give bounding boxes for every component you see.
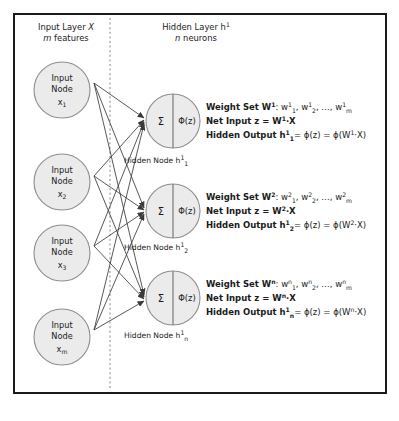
input-node: Input Node x3	[34, 225, 90, 281]
input-node-label-line2: Node	[51, 247, 72, 257]
input-node-label-line1: Input	[51, 236, 73, 246]
input-node-label-line1: Input	[51, 165, 73, 175]
input-node: Input Node xm	[34, 309, 90, 365]
input-node-label-line1: Input	[51, 320, 73, 330]
net-input-equation: Net Input z = Wn·X	[206, 292, 296, 303]
input-node-label-line2: Node	[51, 331, 72, 341]
equation-block: Weight Set W1: w11, w12, …, w1m Net Inpu…	[206, 101, 366, 142]
connection-edges	[94, 83, 144, 330]
diagram-canvas: Input Layer X m features Hidden Layer h1…	[0, 0, 399, 421]
input-node-label-line2: Node	[51, 84, 72, 94]
weight-set-equation: Weight Set W2: w21, w22, …, w2m	[206, 191, 352, 204]
summation-symbol: Σ	[158, 293, 164, 304]
hidden-node-label: Hidden Node h11	[124, 154, 188, 167]
equation-block: Weight Set Wn: wn1, wn2, …, wnm Net Inpu…	[206, 278, 366, 319]
hidden-node-label: Hidden Node h12	[124, 241, 188, 254]
hidden-node: Σ Φ(z) Hidden Node h12	[124, 184, 200, 254]
hidden-node: Σ Φ(z) Hidden Node h11	[124, 94, 200, 167]
equation-block: Weight Set W2: w21, w22, …, w2m Net Inpu…	[206, 191, 366, 232]
net-input-equation: Net Input z = W2·X	[206, 205, 296, 216]
activation-symbol: Φ(z)	[178, 206, 196, 216]
hidden-output-equation: Hidden Output h12= ϕ(z) = ϕ(W2·X)	[206, 219, 366, 232]
summation-symbol: Σ	[158, 206, 164, 217]
weight-set-equation: Weight Set Wn: wn1, wn2, …, wnm	[206, 278, 352, 291]
activation-symbol: Φ(z)	[178, 293, 196, 303]
weight-set-equation: Weight Set W1: w11, w12, …, w1m	[206, 101, 352, 114]
hidden-layer-header-line1: Hidden Layer h1	[162, 21, 230, 32]
hidden-layer-header-line2: n neurons	[175, 33, 217, 43]
net-input-equation: Net Input z = W1·X	[206, 115, 296, 126]
neural-network-diagram: Input Layer X m features Hidden Layer h1…	[0, 0, 399, 421]
input-node-label-line1: Input	[51, 73, 73, 83]
hidden-node-label: Hidden Node h1n	[124, 329, 188, 342]
input-node: Input Node x1	[34, 62, 90, 118]
hidden-output-equation: Hidden Output h1n= ϕ(z) = ϕ(Wn·X)	[206, 306, 366, 319]
input-layer-header-line1: Input Layer X	[38, 22, 94, 32]
input-node-label-line2: Node	[51, 176, 72, 186]
activation-symbol: Φ(z)	[178, 116, 196, 126]
input-layer-header-line2: m features	[43, 33, 88, 43]
input-node: Input Node x2	[34, 154, 90, 210]
hidden-output-equation: Hidden Output h11= ϕ(z) = ϕ(W1·X)	[206, 129, 366, 142]
summation-symbol: Σ	[158, 116, 164, 127]
